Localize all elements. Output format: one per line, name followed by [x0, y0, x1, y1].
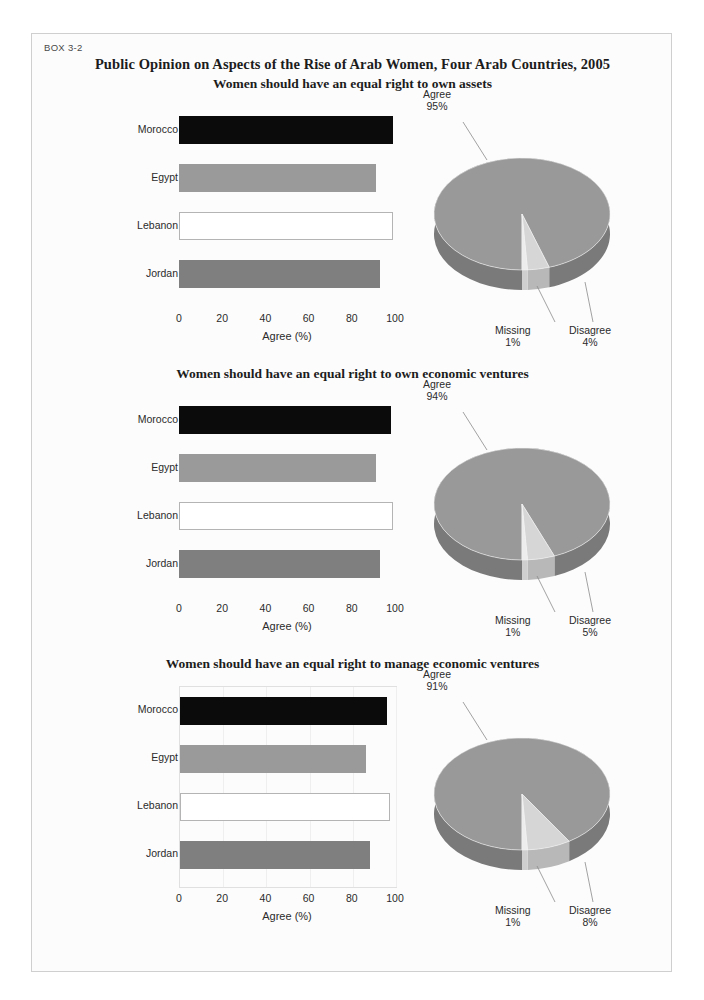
pie-label-name: Disagree	[569, 324, 611, 336]
pie-label-name: Missing	[495, 904, 531, 916]
x-tick-label: 40	[260, 312, 272, 324]
bar-morocco	[179, 116, 393, 144]
bar-row	[180, 841, 396, 869]
x-axis-label: Agree (%)	[179, 910, 395, 922]
bar-egypt	[180, 745, 366, 773]
x-axis-label: Agree (%)	[179, 620, 395, 632]
x-tick-label: 20	[216, 892, 228, 904]
pie-leader-line	[537, 576, 555, 612]
pie-chart: Agree95%Missing1%Disagree4%	[417, 86, 667, 336]
x-tick-label: 20	[216, 602, 228, 614]
bar-egypt	[179, 454, 376, 482]
pie-label-missing: Missing1%	[495, 904, 531, 929]
bar-lebanon	[180, 793, 390, 821]
pie-label-value: 1%	[495, 626, 531, 638]
bar-chart: MoroccoEgyptLebanonJordan020406080100Agr…	[72, 394, 402, 634]
x-axis-ticks: 020406080100	[179, 892, 395, 910]
pie-leader-line	[585, 862, 593, 902]
pie-leader-line	[585, 572, 593, 612]
bar-row	[179, 454, 395, 482]
pie-leader-line	[537, 866, 555, 902]
pie-label-name: Agree	[423, 668, 451, 680]
pie-depth-wall-missing	[522, 270, 528, 290]
pie-label-value: 1%	[495, 916, 531, 928]
chart-section-1: Women should have an equal right to own …	[32, 76, 673, 366]
bar-lebanon	[179, 212, 393, 240]
pie-chart: Agree91%Missing1%Disagree8%	[417, 666, 667, 916]
x-tick-label: 60	[303, 892, 315, 904]
bar-category-label: Lebanon	[137, 509, 178, 521]
pie-label-agree: Agree94%	[423, 378, 451, 403]
x-tick-label: 100	[386, 892, 404, 904]
bar-chart: MoroccoEgyptLebanonJordan020406080100Agr…	[72, 684, 402, 924]
bar-row	[179, 164, 395, 192]
pie-label-name: Missing	[495, 614, 531, 626]
pie-label-disagree: Disagree5%	[569, 614, 611, 639]
bar-row	[179, 116, 395, 144]
bar-row	[179, 212, 395, 240]
x-tick-label: 100	[386, 312, 404, 324]
box-panel: BOX 3-2 Public Opinion on Aspects of the…	[31, 33, 672, 972]
bar-category-label: Lebanon	[137, 799, 178, 811]
x-axis-ticks: 020406080100	[179, 312, 395, 330]
chart-section-3: Women should have an equal right to mana…	[32, 656, 673, 946]
x-tick-label: 60	[303, 602, 315, 614]
bar-jordan	[179, 550, 380, 578]
pie-leader-line	[537, 286, 555, 322]
pie-label-name: Agree	[423, 378, 451, 390]
x-tick-label: 20	[216, 312, 228, 324]
pie-depth-wall-missing	[522, 850, 528, 870]
bar-plot-area	[179, 396, 395, 596]
x-tick-label: 60	[303, 312, 315, 324]
bar-category-label: Egypt	[151, 461, 178, 473]
bar-category-label: Egypt	[151, 171, 178, 183]
bar-jordan	[180, 841, 370, 869]
bar-plot-area	[179, 686, 397, 888]
x-tick-label: 80	[346, 312, 358, 324]
pie-label-value: 95%	[423, 100, 451, 112]
bar-row	[180, 697, 396, 725]
bar-jordan	[179, 260, 380, 288]
bar-category-label: Morocco	[138, 123, 178, 135]
bar-category-label: Jordan	[146, 267, 178, 279]
bar-category-label: Morocco	[138, 413, 178, 425]
bar-row	[180, 793, 396, 821]
bar-category-label: Egypt	[151, 751, 178, 763]
pie-label-value: 5%	[569, 626, 611, 638]
pie-svg	[417, 666, 667, 916]
bar-lebanon	[179, 502, 393, 530]
pie-label-value: 91%	[423, 680, 451, 692]
bar-chart: MoroccoEgyptLebanonJordan020406080100Agr…	[72, 104, 402, 344]
pie-label-disagree: Disagree8%	[569, 904, 611, 929]
bar-category-label: Jordan	[146, 847, 178, 859]
pie-label-value: 4%	[569, 336, 611, 348]
bar-morocco	[179, 406, 391, 434]
bar-row	[179, 502, 395, 530]
x-tick-label: 0	[176, 892, 182, 904]
page-title: Public Opinion on Aspects of the Rise of…	[32, 56, 673, 73]
pie-label-name: Disagree	[569, 614, 611, 626]
x-axis-ticks: 020406080100	[179, 602, 395, 620]
pie-leader-line	[463, 702, 487, 740]
x-tick-label: 40	[260, 892, 272, 904]
bar-row	[180, 745, 396, 773]
bar-category-label: Lebanon	[137, 219, 178, 231]
bar-row	[179, 550, 395, 578]
bar-plot-area	[179, 106, 395, 306]
pie-label-agree: Agree91%	[423, 668, 451, 693]
pie-label-name: Disagree	[569, 904, 611, 916]
pie-label-disagree: Disagree4%	[569, 324, 611, 349]
pie-label-value: 94%	[423, 390, 451, 402]
bar-category-label: Jordan	[146, 557, 178, 569]
pie-leader-line	[463, 122, 487, 160]
bar-egypt	[179, 164, 376, 192]
bar-category-label: Morocco	[138, 703, 178, 715]
x-axis-label: Agree (%)	[179, 330, 395, 342]
box-number-label: BOX 3-2	[44, 42, 83, 53]
pie-depth-wall-missing	[522, 560, 528, 580]
x-tick-label: 80	[346, 892, 358, 904]
chart-section-2: Women should have an equal right to own …	[32, 366, 673, 656]
bar-morocco	[180, 697, 387, 725]
pie-leader-line	[585, 282, 593, 322]
pie-depth-wall-disagree	[528, 267, 550, 290]
